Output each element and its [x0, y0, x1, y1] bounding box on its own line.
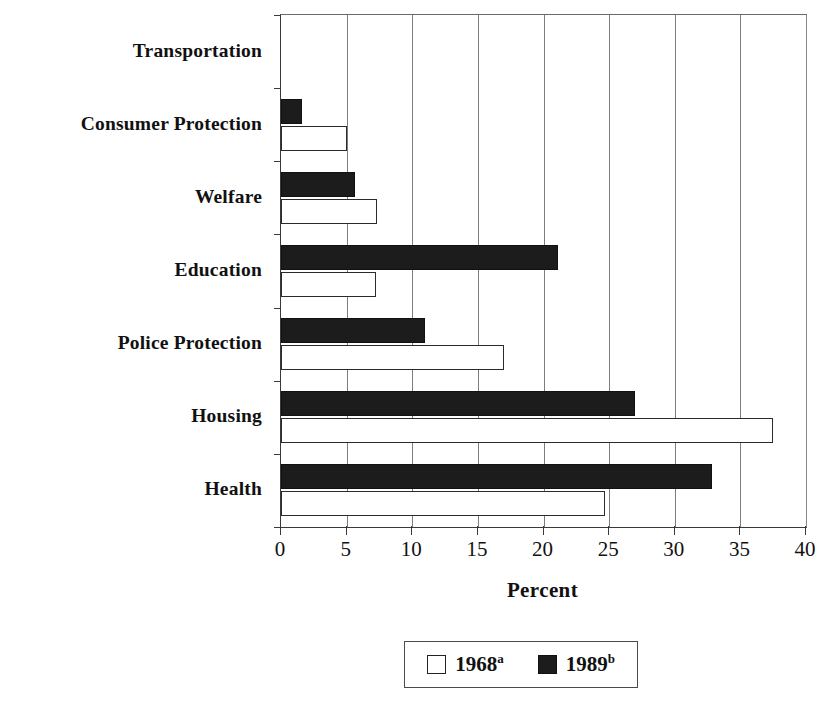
bar-welfare-1989 [281, 172, 355, 197]
x-axis-tick-0 [280, 526, 281, 535]
gridline-35 [740, 15, 741, 527]
x-axis-tick-label-15: 15 [466, 537, 487, 562]
x-axis-tick-label-10: 10 [401, 537, 422, 562]
x-axis-tick-15 [477, 526, 478, 535]
x-axis-title: Percent [280, 578, 805, 603]
x-axis: 0510152025303540 [280, 526, 805, 572]
x-axis-tick-40 [805, 526, 806, 535]
gridline-15 [478, 15, 479, 527]
gridline-30 [675, 15, 676, 527]
category-label-transportation: Transportation [133, 40, 262, 62]
category-label-housing: Housing [191, 405, 262, 427]
bar-housing-1989 [281, 391, 635, 416]
legend-entry-1989: 1989b [538, 652, 615, 677]
bar-consumer-protection-1968 [281, 126, 347, 151]
bar-education-1968 [281, 272, 376, 297]
x-axis-tick-label-40: 40 [795, 537, 816, 562]
x-axis-tick-label-0: 0 [275, 537, 286, 562]
y-axis-tick-0 [274, 15, 281, 16]
x-axis-tick-label-35: 35 [729, 537, 750, 562]
plot-area [280, 14, 807, 528]
bar-consumer-protection-1989 [281, 99, 302, 124]
category-label-welfare: Welfare [195, 186, 262, 208]
y-axis-tick-2 [274, 161, 281, 162]
y-axis-tick-5 [274, 381, 281, 382]
gridline-25 [609, 15, 610, 527]
bar-police-protection-1989 [281, 318, 425, 343]
chart-legend: 1968a 1989b [404, 641, 638, 688]
gridline-10 [412, 15, 413, 527]
gridline-40 [806, 15, 807, 527]
y-axis-tick-1 [274, 88, 281, 89]
category-label-consumer-protection: Consumer Protection [81, 113, 262, 135]
x-axis-tick-30 [674, 526, 675, 535]
category-label-health: Health [204, 478, 262, 500]
gridline-20 [544, 15, 545, 527]
x-axis-tick-10 [411, 526, 412, 535]
x-axis-tick-5 [346, 526, 347, 535]
x-axis-tick-25 [608, 526, 609, 535]
bar-education-1989 [281, 245, 558, 270]
filled-square-swatch-icon [538, 655, 557, 674]
x-axis-tick-label-20: 20 [532, 537, 553, 562]
category-label-police-protection: Police Protection [118, 332, 262, 354]
bar-police-protection-1968 [281, 345, 504, 370]
open-square-swatch-icon [427, 655, 446, 674]
category-axis: TransportationConsumer ProtectionWelfare… [0, 14, 272, 526]
bar-housing-1968 [281, 418, 773, 443]
legend-label-1989: 1989b [566, 652, 615, 677]
category-label-education: Education [175, 259, 262, 281]
bar-welfare-1968 [281, 199, 377, 224]
y-axis-tick-4 [274, 308, 281, 309]
bar-health-1989 [281, 464, 712, 489]
bar-chart-figure: TransportationConsumer ProtectionWelfare… [0, 0, 839, 726]
x-axis-tick-label-5: 5 [340, 537, 351, 562]
y-axis-tick-6 [274, 454, 281, 455]
bar-health-1968 [281, 491, 605, 516]
x-axis-tick-label-30: 30 [663, 537, 684, 562]
x-axis-tick-35 [739, 526, 740, 535]
legend-label-1968: 1968a [455, 652, 504, 677]
y-axis-tick-3 [274, 234, 281, 235]
x-axis-tick-20 [543, 526, 544, 535]
legend-entry-1968: 1968a [427, 652, 504, 677]
gridline-5 [347, 15, 348, 527]
x-axis-tick-label-25: 25 [598, 537, 619, 562]
